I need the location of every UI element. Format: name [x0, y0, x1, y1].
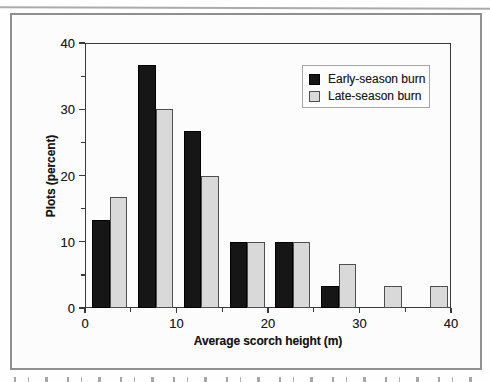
- y-axis-tick: [81, 274, 85, 275]
- y-tick-value: 30: [43, 103, 75, 116]
- bar-early-season-burn: [138, 65, 156, 308]
- x-axis-tick: [222, 308, 223, 312]
- x-tick-value: 20: [254, 317, 282, 330]
- y-axis-tick: [79, 307, 85, 308]
- y-axis-tick: [79, 175, 85, 176]
- x-axis-tick: [313, 308, 314, 312]
- y-tick-value: 10: [43, 236, 75, 249]
- bar-late-season-burn: [293, 242, 311, 308]
- x-axis-tick: [176, 308, 177, 313]
- bar-late-season-burn: [201, 176, 219, 309]
- y-axis-tick: [79, 109, 85, 110]
- legend-item-early-season-burn: Early-season burn: [309, 71, 429, 87]
- bar-early-season-burn: [321, 286, 339, 308]
- x-tick-value: 0: [71, 317, 99, 330]
- legend-swatch-icon-late-season-burn: [309, 91, 320, 102]
- x-axis-tick: [84, 308, 85, 313]
- bar-early-season-burn: [92, 220, 110, 308]
- x-tick-value: 30: [346, 317, 374, 330]
- x-tick-value: 10: [163, 317, 191, 330]
- y-axis-tick: [81, 142, 85, 143]
- legend: Early-season burnLate-season burn: [302, 65, 430, 108]
- y-axis-tick: [81, 76, 85, 77]
- legend-label-late-season-burn: Late-season burn: [328, 89, 421, 103]
- x-axis-tick: [130, 308, 131, 312]
- y-axis-tick: [81, 208, 85, 209]
- y-axis-label: Plots (percent): [44, 135, 58, 218]
- x-axis-tick: [405, 308, 406, 312]
- bar-early-season-burn: [230, 242, 248, 308]
- bar-early-season-burn: [275, 242, 293, 308]
- y-tick-value: 0: [43, 302, 75, 315]
- x-axis-tick: [450, 308, 451, 313]
- y-axis-tick: [79, 241, 85, 242]
- y-tick-value: 40: [43, 37, 75, 50]
- y-axis-tick: [79, 42, 85, 43]
- bar-early-season-burn: [184, 131, 202, 308]
- x-axis-label: Average scorch height (m): [194, 334, 342, 348]
- x-axis-tick: [359, 308, 360, 313]
- scanned-figure-page: 010203040010203040 Plots (percent) Avera…: [0, 0, 490, 382]
- bar-late-season-burn: [156, 109, 174, 308]
- bar-late-season-burn: [339, 264, 357, 308]
- bar-late-season-burn: [110, 197, 128, 308]
- bar-late-season-burn: [247, 242, 265, 308]
- x-tick-value: 40: [437, 317, 465, 330]
- x-axis-tick: [267, 308, 268, 313]
- legend-swatch-icon-early-season-burn: [309, 74, 320, 85]
- bar-chart: 010203040010203040: [0, 0, 490, 382]
- cropped-caption-text: [14, 377, 472, 382]
- legend-label-early-season-burn: Early-season burn: [328, 72, 425, 86]
- bar-late-season-burn: [430, 286, 448, 308]
- bar-late-season-burn: [384, 286, 402, 308]
- legend-item-late-season-burn: Late-season burn: [309, 88, 429, 104]
